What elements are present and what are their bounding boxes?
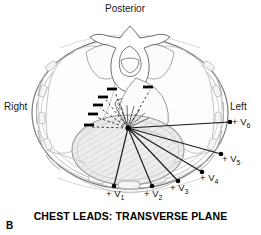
plus-sign-v2: + xyxy=(144,188,152,199)
plus-sign-v4: + xyxy=(200,172,208,183)
minus-marker-1 xyxy=(107,88,117,91)
lead-subscript-v5: 5 xyxy=(237,159,241,166)
lead-subscript-v4: 4 xyxy=(215,178,219,185)
minus-marker-4 xyxy=(88,113,98,116)
chest-leads-transverse-diagram xyxy=(0,0,261,235)
plus-sign-v1: + xyxy=(106,188,114,199)
plus-sign-v3: + xyxy=(170,182,178,193)
minus-marker-3 xyxy=(93,104,103,107)
lead-label-v1: + V1 xyxy=(106,188,124,201)
heart-center-origin xyxy=(125,125,130,130)
lead-subscript-v3: 3 xyxy=(185,188,189,195)
lead-label-v4: + V4 xyxy=(200,172,218,185)
lead-subscript-v1: 1 xyxy=(121,194,125,201)
minus-marker-2 xyxy=(98,96,108,99)
plus-sign-v6: + xyxy=(232,116,240,127)
orientation-label-right: Right xyxy=(4,101,27,112)
minus-marker-5 xyxy=(84,124,94,127)
figure-caption: CHEST LEADS: TRANSVERSE PLANE xyxy=(0,210,261,222)
lead-label-v5: + V5 xyxy=(222,153,240,166)
lead-subscript-v2: 2 xyxy=(159,194,163,201)
lead-subscript-v6: 6 xyxy=(247,122,251,129)
orientation-label-posterior: Posterior xyxy=(105,3,145,14)
plus-sign-v5: + xyxy=(222,153,230,164)
lead-label-v6: + V6 xyxy=(232,116,250,129)
minus-marker-6 xyxy=(143,86,153,89)
panel-letter: B xyxy=(6,220,13,231)
lead-label-v3: + V3 xyxy=(170,182,188,195)
lead-label-v2: + V2 xyxy=(144,188,162,201)
orientation-label-left: Left xyxy=(230,101,247,112)
